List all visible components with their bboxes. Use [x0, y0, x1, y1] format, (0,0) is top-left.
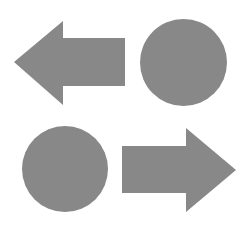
circle-bottom-left-shape [22, 126, 108, 212]
circle-top-right-shape [140, 19, 227, 106]
shapes-canvas [0, 0, 250, 231]
shapes-svg [0, 0, 250, 231]
